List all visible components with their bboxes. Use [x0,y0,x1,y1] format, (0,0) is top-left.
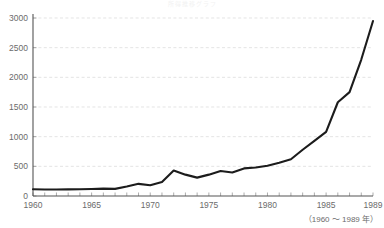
x-axis-tick-labels: 1960196519701975198019851989 [24,200,383,210]
y-tick-label-2500: 2500 [9,43,28,53]
x-tick-label-1970: 1970 [141,200,160,210]
x-tick-label-1985: 1985 [317,200,336,210]
chart-canvas: 050010001500200025003000 196019651970197… [0,0,384,228]
x-tick-label-1965: 1965 [82,200,101,210]
data-series-line [33,21,373,190]
y-axis-tick-labels: 050010001500200025003000 [9,13,28,201]
y-tick-label-1500: 1500 [9,102,28,112]
line-chart-figure: 所得推移グラフ 050010001500200025003000 1960196… [0,0,384,228]
y-tick-label-1000: 1000 [9,132,28,142]
x-tick-label-1980: 1980 [258,200,277,210]
x-tick-label-1975: 1975 [199,200,218,210]
y-tick-label-500: 500 [14,161,28,171]
y-tick-label-2000: 2000 [9,72,28,82]
gridlines [33,18,373,166]
chart-caption: （1960 ～ 1989 年） [304,214,378,224]
page-title: 所得推移グラフ [0,0,384,8]
x-tick-label-1989: 1989 [364,200,383,210]
x-tick-label-1960: 1960 [24,200,43,210]
y-tick-label-3000: 3000 [9,13,28,23]
